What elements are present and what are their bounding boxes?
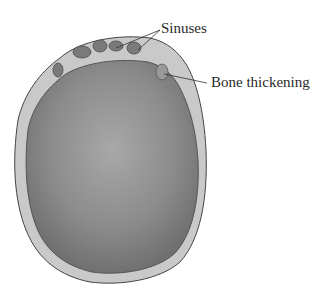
label-bone-thickening: Bone thickening [211, 74, 310, 91]
skull-cavity [26, 61, 198, 274]
label-sinuses: Sinuses [161, 20, 207, 37]
skull-illustration [0, 0, 324, 291]
bone-thickening-spot [156, 64, 168, 80]
